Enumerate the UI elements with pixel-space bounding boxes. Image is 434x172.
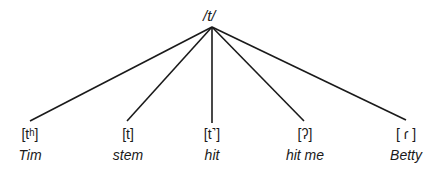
allophone-symbol: [t˺] [167,126,257,142]
example-word: stem [83,147,173,163]
allophone-symbol: [tʰ] [0,126,75,142]
branch-line-hit-me [212,27,304,121]
example-word: Betty [361,147,434,163]
branch-line-stem [127,27,212,121]
allophone-symbol: [ʔ] [260,126,350,142]
example-word: hit [167,147,257,163]
example-word: Tim [0,147,75,163]
allophone-symbol: [ ɾ ] [361,126,434,142]
example-word: hit me [260,147,350,163]
phoneme-root: /t/ [203,7,216,24]
branch-line-tim [30,27,212,121]
branch-line-betty [212,27,406,120]
allophone-symbol: [t] [83,126,173,142]
